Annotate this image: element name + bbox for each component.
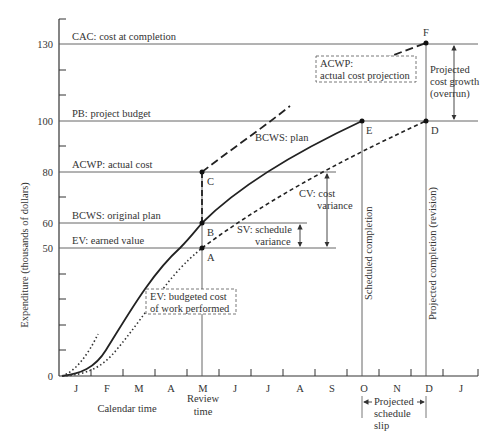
- earned-value-chart: 130 100 80 60 50 0 Expenditure (thousand…: [0, 0, 497, 444]
- point-e-label: E: [366, 125, 372, 136]
- point-c-label: C: [207, 176, 214, 187]
- point-b-label: B: [207, 227, 214, 238]
- cv-label: CV: cost: [299, 188, 335, 199]
- month-labels: J F M A M J J A S O N D J: [74, 383, 463, 394]
- schedule-slip-label-2: schedule: [374, 408, 411, 419]
- month-label: A: [296, 383, 304, 394]
- review-time-label: Review: [187, 393, 219, 404]
- point-f: [424, 41, 429, 46]
- y-tick-100: 100: [37, 116, 53, 127]
- acwp-label: ACWP: actual cost: [72, 159, 153, 170]
- month-label: J: [266, 383, 270, 394]
- month-label: A: [167, 383, 175, 394]
- schedule-slip-label-3: slip: [374, 420, 389, 431]
- cost-growth-label-3: (overrun): [430, 88, 470, 100]
- point-a-label: A: [207, 252, 215, 263]
- acwp-projection-label: ACWP:: [320, 58, 353, 69]
- ev-box-label: EV: budgeted cost: [150, 291, 227, 302]
- sv-label-2: variance: [255, 236, 291, 247]
- point-f-label: F: [423, 27, 429, 38]
- point-a: [200, 246, 205, 251]
- month-label: N: [393, 383, 401, 394]
- acwp-projection-label-2: actual cost projection: [320, 70, 411, 81]
- x-ticks: [91, 369, 478, 376]
- month-label: D: [425, 383, 433, 394]
- cv-label-2: variance: [317, 200, 353, 211]
- point-d: [424, 119, 429, 124]
- ev-box-label-2: of work performed: [150, 303, 230, 314]
- month-label: J: [74, 383, 78, 394]
- month-label: J: [233, 383, 237, 394]
- acwp-early-curve: [62, 334, 98, 376]
- month-label: J: [459, 383, 463, 394]
- bcws-original-label: BCWS: original plan: [72, 210, 161, 221]
- point-d-label: D: [431, 125, 439, 136]
- sv-label: SV: schedule: [237, 224, 292, 235]
- ev-projection-curve: [202, 121, 426, 248]
- cost-growth-label-2: cost growth: [430, 76, 480, 87]
- y-ticks: [59, 70, 66, 350]
- cost-growth-label: Projected: [430, 64, 470, 75]
- x-axis-title: Calendar time: [97, 403, 157, 414]
- bcws-plan-label: BCWS: plan: [255, 132, 309, 143]
- review-time-label-2: time: [194, 406, 213, 417]
- cac-label: CAC: cost at completion: [72, 31, 177, 42]
- month-label: F: [104, 383, 110, 394]
- y-tick-50: 50: [43, 243, 54, 254]
- y-tick-labels: 130 100 80 60 50 0: [37, 39, 53, 382]
- y-axis-title: Expenditure (thousands of dollars): [19, 182, 31, 328]
- point-b: [200, 221, 205, 226]
- y-tick-80: 80: [43, 167, 54, 178]
- projected-completion-label: Projected completion (revision): [427, 187, 439, 320]
- schedule-slip-label: Projected: [374, 396, 414, 407]
- vertical-reference-lines: [202, 43, 426, 376]
- pb-label: PB: project budget: [72, 108, 151, 119]
- y-tick-60: 60: [43, 218, 54, 229]
- ev-label: EV: earned value: [72, 235, 144, 246]
- point-e: [360, 119, 365, 124]
- month-label: M: [134, 383, 144, 394]
- point-c: [200, 170, 205, 175]
- y-tick-130: 130: [37, 39, 53, 50]
- month-label: S: [329, 383, 335, 394]
- month-label: O: [360, 383, 368, 394]
- y-tick-0: 0: [48, 371, 53, 382]
- scheduled-completion-label: Scheduled completion: [363, 206, 374, 300]
